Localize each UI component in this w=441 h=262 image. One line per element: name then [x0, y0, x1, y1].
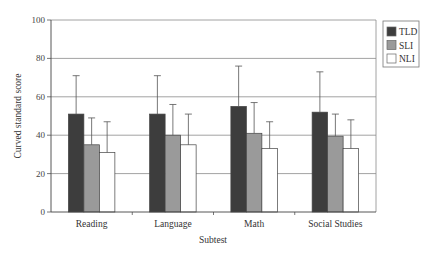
y-tick-label: 40	[36, 130, 46, 140]
legend-label-sli: SLI	[399, 41, 413, 51]
bar-tld-social-studies	[312, 112, 328, 212]
y-tick-label: 100	[32, 15, 46, 25]
legend-label-nli: NLI	[399, 54, 415, 64]
x-tick-label: Math	[244, 219, 264, 229]
bar-tld-math	[231, 106, 247, 212]
legend-label-tld: TLD	[399, 27, 418, 37]
x-tick-label: Social Studies	[308, 219, 362, 229]
y-axis-title: Curved standard score	[13, 74, 23, 159]
bars-group	[68, 66, 358, 212]
y-tick-label: 80	[36, 53, 46, 63]
x-axis-title: Subtest	[199, 235, 227, 245]
bar-nli-math	[262, 149, 278, 212]
bar-chart: 020406080100ReadingLanguageMathSocial St…	[0, 0, 441, 262]
legend: TLDSLINLI	[383, 21, 419, 67]
y-tick-label: 0	[41, 207, 46, 217]
x-tick-label: Language	[154, 219, 191, 229]
legend-swatch-nli	[387, 54, 396, 63]
legend-swatch-tld	[387, 27, 396, 36]
bar-nli-reading	[99, 152, 115, 212]
y-tick-label: 60	[36, 92, 46, 102]
legend-swatch-sli	[387, 41, 396, 50]
y-tick-label: 20	[36, 169, 46, 179]
bar-sli-language	[165, 135, 181, 212]
bar-tld-language	[150, 114, 166, 212]
bar-tld-reading	[68, 114, 84, 212]
x-tick-label: Reading	[76, 219, 108, 229]
bar-nli-social-studies	[343, 149, 359, 212]
bar-sli-reading	[84, 145, 100, 212]
bar-nli-language	[181, 145, 197, 212]
bar-sli-math	[246, 133, 262, 212]
bar-sli-social-studies	[328, 136, 344, 212]
